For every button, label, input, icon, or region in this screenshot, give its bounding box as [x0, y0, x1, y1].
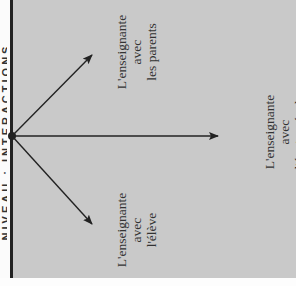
label-team-line2: avec — [277, 72, 292, 192]
label-student-line1: L'enseignante — [114, 175, 129, 285]
label-student-line2: avec — [129, 175, 144, 285]
label-student: L'enseignante avec l'élève — [114, 175, 162, 285]
label-parents: L'enseignante avec les parents — [114, 0, 162, 107]
label-parents-line1: L'enseignante — [114, 0, 129, 107]
arrow-to-parents — [12, 55, 92, 136]
origin-dot-icon — [8, 132, 16, 140]
label-student-line3: l'élève — [144, 175, 159, 285]
label-parents-line2: avec — [129, 0, 144, 107]
label-team: L'enseignante avec l'équipe-école — [262, 72, 296, 192]
arrow-to-student — [12, 136, 92, 224]
label-team-line1: L'enseignante — [262, 72, 277, 192]
label-team-line3: l'équipe-école — [292, 72, 296, 192]
label-parents-line3: les parents — [144, 0, 159, 107]
